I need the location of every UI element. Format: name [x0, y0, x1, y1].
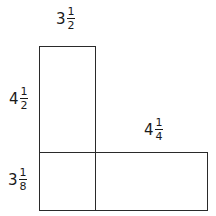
label-top-width: 3 1 2 [56, 7, 76, 31]
fraction-numerator: 1 [67, 7, 76, 18]
fraction-numerator: 1 [20, 87, 29, 98]
label-right-lower-width: 4 1 4 [144, 118, 164, 142]
fraction-numerator: 1 [19, 168, 28, 179]
fraction-denominator: 4 [155, 130, 164, 142]
wide-rectangle [39, 152, 208, 211]
label-whole: 3 [8, 173, 18, 188]
label-fraction: 1 8 [19, 168, 28, 192]
label-fraction: 1 2 [67, 7, 76, 31]
label-whole: 4 [9, 92, 19, 107]
label-whole: 3 [56, 12, 66, 27]
label-fraction: 1 4 [155, 118, 164, 142]
label-whole: 4 [144, 123, 154, 138]
label-left-upper-height: 4 1 2 [9, 87, 29, 111]
l-shape-diagram: 3 1 2 4 1 2 4 1 4 3 1 8 [0, 0, 216, 216]
label-fraction: 1 2 [20, 87, 29, 111]
fraction-denominator: 2 [20, 99, 29, 111]
label-left-lower-height: 3 1 8 [8, 168, 28, 192]
fraction-numerator: 1 [155, 118, 164, 129]
fraction-denominator: 8 [19, 180, 28, 192]
fraction-denominator: 2 [67, 19, 76, 31]
